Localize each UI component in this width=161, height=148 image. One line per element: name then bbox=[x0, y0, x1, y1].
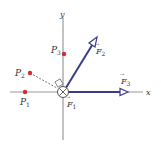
point-p3 bbox=[62, 52, 66, 56]
f3-label: → F3 bbox=[120, 71, 131, 87]
p3-label: P3 bbox=[50, 45, 61, 56]
x-axis-label: x bbox=[146, 88, 151, 97]
svg-text:F2: F2 bbox=[95, 47, 106, 57]
right-angle-marker bbox=[55, 79, 63, 87]
f2-vector bbox=[64, 42, 94, 91]
p2-dashed-line bbox=[30, 73, 57, 88]
f2-label: → F2 bbox=[95, 41, 106, 57]
y-axis-label: y bbox=[59, 10, 65, 19]
force-diagram: y x P1 P2 P3 → F1 → F2 → F3 bbox=[0, 0, 161, 148]
f3-arrowhead-icon bbox=[120, 89, 128, 96]
f1-label: → F1 bbox=[66, 94, 76, 110]
svg-text:F1: F1 bbox=[66, 100, 76, 110]
svg-text:F3: F3 bbox=[120, 77, 131, 87]
p2-label: P2 bbox=[14, 68, 25, 79]
p1-label: P1 bbox=[19, 97, 30, 108]
point-p1 bbox=[23, 90, 27, 94]
point-p2 bbox=[28, 71, 32, 75]
